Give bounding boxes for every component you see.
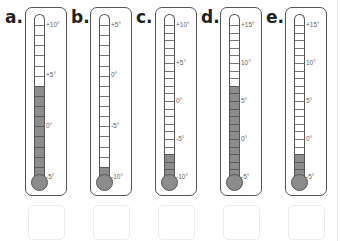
scale-tick xyxy=(165,71,174,72)
scale-tick xyxy=(230,25,239,26)
item-label-a: a. xyxy=(5,8,23,26)
scale-tick xyxy=(230,33,239,34)
scale-label: +15° xyxy=(241,21,255,28)
scale-label: -10° xyxy=(176,173,188,180)
scale-tick xyxy=(230,147,239,148)
scale-tick xyxy=(295,109,304,110)
scale-tick xyxy=(35,167,44,168)
scale-tick xyxy=(165,131,174,132)
scale-label: +5° xyxy=(46,71,56,78)
scale-tick xyxy=(230,162,239,163)
answer-box-c[interactable] xyxy=(158,205,195,240)
item-label-d: d. xyxy=(201,8,220,26)
scale-tick xyxy=(35,147,44,148)
scale-tick xyxy=(230,109,239,110)
scale-label: 0° xyxy=(46,122,52,129)
item-label-b: b. xyxy=(71,8,90,26)
thermometer-tube xyxy=(294,14,305,180)
scale-label: 0° xyxy=(306,135,312,142)
scale-tick xyxy=(165,101,174,102)
scale-tick xyxy=(165,139,174,140)
answer-box-b[interactable] xyxy=(93,205,130,240)
scale-tick xyxy=(295,86,304,87)
scale-tick xyxy=(230,154,239,155)
scale-tick xyxy=(100,116,109,117)
scale-tick xyxy=(295,101,304,102)
scale-tick xyxy=(295,78,304,79)
page-edge-divider xyxy=(337,0,338,241)
thermometer-tube xyxy=(99,14,110,180)
scale-tick xyxy=(230,40,239,41)
scale-tick xyxy=(295,124,304,125)
scale-tick xyxy=(165,116,174,117)
scale-label: +10° xyxy=(46,21,60,28)
answer-box-e[interactable] xyxy=(288,205,325,240)
scale-tick xyxy=(295,71,304,72)
scale-tick xyxy=(100,55,109,56)
scale-tick xyxy=(165,48,174,49)
scale-tick xyxy=(100,25,109,26)
scale-tick xyxy=(35,86,44,87)
scale-tick xyxy=(35,96,44,97)
scale-tick xyxy=(35,157,44,158)
scale-tick xyxy=(165,55,174,56)
scale-tick xyxy=(230,93,239,94)
scale-tick xyxy=(295,55,304,56)
answer-box-a[interactable] xyxy=(28,205,65,240)
scale-tick xyxy=(35,35,44,36)
scale-tick xyxy=(100,157,109,158)
item-label-c: c. xyxy=(136,8,153,26)
scale-tick xyxy=(100,96,109,97)
scale-tick xyxy=(165,25,174,26)
scale-tick xyxy=(165,33,174,34)
thermometer-tube xyxy=(34,14,45,180)
scale-tick xyxy=(165,147,174,148)
scale-label: +15° xyxy=(306,21,320,28)
answer-box-d[interactable] xyxy=(223,205,260,240)
scale-tick xyxy=(295,169,304,170)
thermometer-card-d: +15°10°5°0°-5° xyxy=(220,7,262,196)
thermometer-card-b: +5°0°-5°-10° xyxy=(90,7,132,196)
thermometer-card-a: +10°+5°0°-5° xyxy=(25,7,67,196)
scale-label: -10° xyxy=(111,173,123,180)
mercury-fill xyxy=(35,86,44,180)
scale-label: +5° xyxy=(111,21,121,28)
scale-label: -5° xyxy=(241,173,249,180)
scale-tick xyxy=(35,126,44,127)
scale-tick xyxy=(100,66,109,67)
scale-tick xyxy=(230,169,239,170)
scale-tick xyxy=(100,45,109,46)
scale-tick xyxy=(165,162,174,163)
scale-tick xyxy=(165,109,174,110)
scale-label: +5° xyxy=(176,59,186,66)
thermometer-tube xyxy=(164,14,175,180)
item-label-e: e. xyxy=(266,8,284,26)
scale-tick xyxy=(100,106,109,107)
scale-tick xyxy=(230,78,239,79)
scale-tick xyxy=(35,55,44,56)
scale-tick xyxy=(100,147,109,148)
scale-tick xyxy=(35,76,44,77)
scale-tick xyxy=(295,154,304,155)
scale-tick xyxy=(165,78,174,79)
scale-label: -5° xyxy=(176,135,184,142)
scale-tick xyxy=(295,33,304,34)
scale-tick xyxy=(230,71,239,72)
scale-tick xyxy=(230,86,239,87)
scale-label: 0° xyxy=(241,135,247,142)
scale-tick xyxy=(35,45,44,46)
scale-tick xyxy=(230,101,239,102)
scale-tick xyxy=(295,63,304,64)
scale-tick xyxy=(295,131,304,132)
scale-tick xyxy=(35,106,44,107)
scale-tick xyxy=(295,48,304,49)
scale-tick xyxy=(230,48,239,49)
scale-tick xyxy=(165,86,174,87)
scale-tick xyxy=(165,154,174,155)
scale-tick xyxy=(230,116,239,117)
scale-tick xyxy=(165,124,174,125)
scale-label: 5° xyxy=(306,97,312,104)
scale-tick xyxy=(295,93,304,94)
scale-tick xyxy=(230,131,239,132)
scale-label: 0° xyxy=(111,71,117,78)
